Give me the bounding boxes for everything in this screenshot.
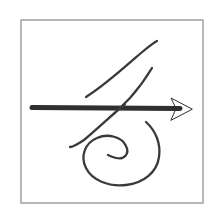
sketch-drawing (0, 0, 219, 219)
sketch-canvas (0, 0, 219, 219)
sketch-border (21, 20, 203, 203)
arrow-shaft (32, 108, 180, 109)
